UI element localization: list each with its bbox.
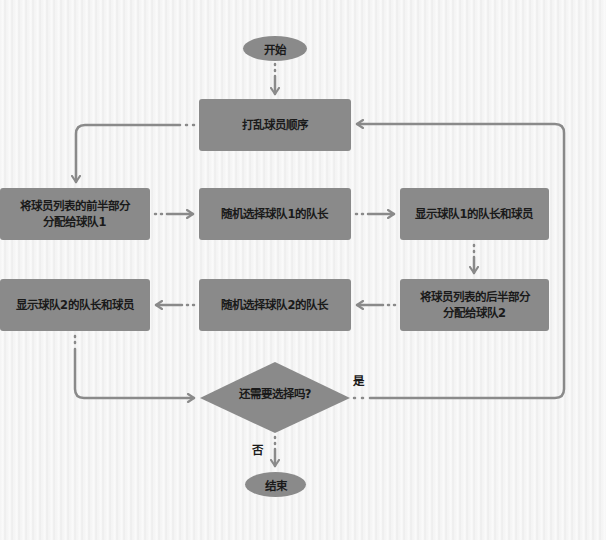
decision-yes-label: 是 [353, 372, 364, 388]
node-label: 显示球队1的队长和球员 [415, 206, 533, 222]
connectors [0, 0, 606, 540]
node-assign-second-half: 将球员列表的后半部分 分配给球队2 [400, 279, 549, 331]
node-label-line1: 将球员列表的后半部分 [420, 289, 530, 305]
start-terminal: 开始 [243, 36, 307, 61]
node-label: 显示球队2的队长和球员 [16, 297, 134, 313]
node-label: 随机选择球队1的队长 [221, 206, 328, 222]
node-label-line2: 分配给球队1 [43, 214, 106, 230]
start-label: 开始 [264, 41, 286, 57]
node-pick-captain-team1: 随机选择球队1的队长 [199, 188, 351, 240]
node-shuffle-players: 打乱球员顺序 [199, 99, 351, 151]
node-show-team1: 显示球队1的队长和球员 [400, 188, 549, 240]
decision-no-label: 否 [252, 441, 263, 457]
flowchart-canvas: 开始 打乱球员顺序 将球员列表的前半部分 分配给球队1 随机选择球队1的队长 显… [0, 0, 606, 540]
node-label: 打乱球员顺序 [242, 117, 308, 133]
node-label: 随机选择球队2的队长 [221, 297, 328, 313]
decision-question: 还需要选择吗? [200, 385, 350, 401]
node-pick-captain-team2: 随机选择球队2的队长 [199, 279, 351, 331]
end-label: 结束 [265, 477, 287, 493]
node-label-line2: 分配给球队2 [443, 305, 506, 321]
end-terminal: 结束 [245, 472, 306, 497]
node-assign-first-half: 将球员列表的前半部分 分配给球队1 [0, 188, 150, 240]
node-label-line1: 将球员列表的前半部分 [20, 198, 130, 214]
node-show-team2: 显示球队2的队长和球员 [0, 279, 150, 331]
